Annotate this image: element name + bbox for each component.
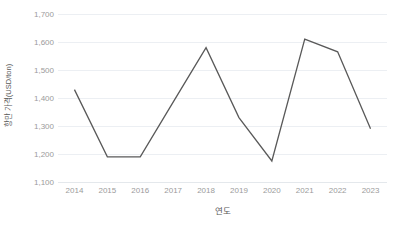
- x-tick-label-2022: 2022: [329, 186, 347, 195]
- x-tick-label-2021: 2021: [296, 186, 314, 195]
- y-axis-title-label: 항만 가격(USD/ton): [3, 63, 14, 126]
- x-axis-tick-labels: 2014201520162017201820192020202120222023: [58, 186, 387, 200]
- x-tick-label-2019: 2019: [230, 186, 248, 195]
- y-tick-label-1600: 1,600: [34, 38, 54, 47]
- x-tick-label-2018: 2018: [197, 186, 215, 195]
- y-axis-title: 항만 가격(USD/ton): [0, 0, 16, 190]
- x-tick-label-2015: 2015: [98, 186, 116, 195]
- x-axis-title: 연도: [58, 204, 387, 216]
- x-tick-label-2017: 2017: [164, 186, 182, 195]
- x-tick-label-2014: 2014: [66, 186, 84, 195]
- y-tick-label-1700: 1,700: [34, 10, 54, 19]
- plot-area: [58, 14, 387, 182]
- x-tick-label-2023: 2023: [362, 186, 380, 195]
- y-tick-label-1100: 1,100: [34, 178, 54, 187]
- y-tick-label-1200: 1,200: [34, 150, 54, 159]
- y-axis-tick-labels: 1,1001,2001,3001,4001,5001,6001,700: [16, 14, 58, 182]
- y-tick-label-1400: 1,400: [34, 94, 54, 103]
- x-tick-label-2020: 2020: [263, 186, 281, 195]
- series-line-path: [74, 39, 370, 161]
- gridline-1100: [58, 182, 387, 183]
- x-tick-label-2016: 2016: [131, 186, 149, 195]
- y-tick-label-1500: 1,500: [34, 66, 54, 75]
- y-tick-label-1300: 1,300: [34, 122, 54, 131]
- series-line-chart-svg: [58, 14, 387, 182]
- line-chart: 항만 가격(USD/ton) 1,1001,2001,3001,4001,500…: [0, 0, 393, 230]
